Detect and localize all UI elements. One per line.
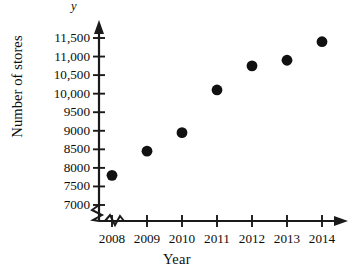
data-point [212,85,223,96]
data-point [282,55,293,66]
y-axis-arrowhead [94,20,104,34]
data-point [317,36,328,47]
scatter-plot-figure: Number of stores y Year 11,50011,00010,5… [0,0,354,277]
plot-canvas [0,0,354,277]
data-points-group [107,36,328,180]
x-axis-arrowhead [334,216,348,226]
axes-group [94,20,348,226]
data-point [142,146,153,157]
tick-marks-group [93,38,322,227]
data-point [247,60,258,71]
data-point [177,127,188,138]
data-point [107,170,118,181]
y-axis-break-zigzag [92,205,102,221]
